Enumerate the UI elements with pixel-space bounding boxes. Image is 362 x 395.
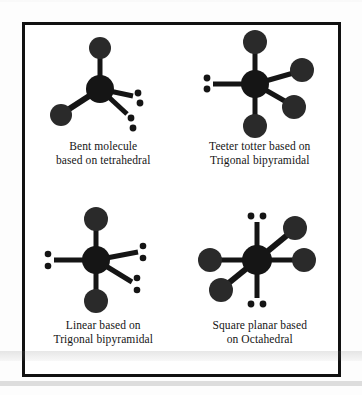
terminal-atom-left [198,248,222,272]
figure-cell-teeter-totter: Teeter totter based on Trigonal bipyrami… [182,25,339,200]
terminal-atom-top [89,37,111,59]
figure-caption-bent-molecule: Bent molecule based on tetrahedral [26,139,181,167]
terminal-atom-lower-left [209,278,233,302]
lone-pair-right-dot-a [140,242,147,249]
lone-pair-dot-a [203,75,210,82]
atoms-group [50,37,114,126]
atoms-group [82,207,110,313]
square-planar-diagram [185,204,335,316]
bent-molecule-diagram [28,29,178,141]
terminal-atom-right [292,248,316,272]
caption-line-2: on Octahedral [182,332,337,346]
terminal-atom-axial-top [243,30,267,54]
figure-grid: Bent molecule based on tetrahedral [25,25,338,374]
central-atom [242,245,272,275]
lone-pair-bottom-dot-a [247,300,254,307]
lone-pairs-group [203,75,210,93]
central-atom [241,70,269,98]
terminal-atom-axial-bottom [84,289,108,313]
central-atom [86,75,114,103]
caption-line-2: based on tetrahedral [26,153,181,167]
figure-cell-square-planar: Square planar based on Octahedral [182,200,339,375]
lone-pair-dot-2b [130,125,137,132]
lone-pair-bottom-dot-b [259,300,266,307]
teeter-totter-diagram [185,29,335,141]
figure-caption-teeter-totter: Teeter totter based on Trigonal bipyrami… [182,139,337,167]
caption-line-1: Linear based on [26,318,181,332]
terminal-atom-equatorial-upper-right [290,58,314,82]
lone-pair-top-dot-a [247,212,254,219]
caption-line-1: Teeter totter based on [182,139,337,153]
lone-pair-dot-2a [128,115,135,122]
figure-cell-linear-molecule: Linear based on Trigonal bipyramidal [25,200,182,375]
caption-line-2: Trigonal bipyramidal [182,153,337,167]
lone-pair-dot-1b [137,100,144,107]
atoms-group [241,30,314,138]
lone-pair-dot-b [203,86,210,93]
terminal-atom-axial-bottom [243,114,267,138]
figure-cell-bent-molecule: Bent molecule based on tetrahedral [25,25,182,200]
scan-artifact-band-lower [0,381,362,386]
lone-pair-dot-1a [135,90,142,97]
figure-caption-square-planar: Square planar based on Octahedral [182,318,337,346]
caption-line-2: Trigonal bipyramidal [26,332,181,346]
lone-pair-lower-right-dot-a [134,274,141,281]
terminal-atom-upper-right [283,216,307,240]
lone-pair-lower-right-dot-b [134,286,141,293]
terminal-atom-axial-top [84,207,108,231]
central-atom [82,246,110,274]
terminal-atom-equatorial-lower-right [282,95,306,119]
linear-molecule-diagram [28,204,178,316]
terminal-atom-lower-left [50,104,72,126]
lone-pair-right-dot-b [140,254,147,261]
figure-caption-linear-molecule: Linear based on Trigonal bipyramidal [26,318,181,346]
lone-pair-left-dot-a [45,250,52,257]
lone-pair-top-dot-b [259,212,266,219]
lone-pair-left-dot-b [45,262,52,269]
caption-line-1: Square planar based [182,318,337,332]
caption-line-1: Bent molecule [26,139,181,153]
diagram-frame: Bent molecule based on tetrahedral [22,22,341,377]
scanned-page: Bent molecule based on tetrahedral [0,0,362,395]
